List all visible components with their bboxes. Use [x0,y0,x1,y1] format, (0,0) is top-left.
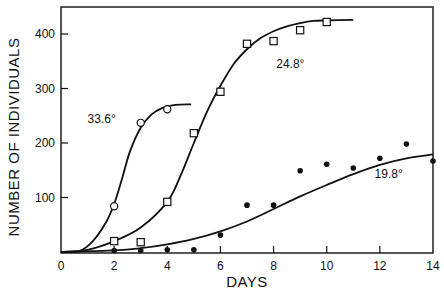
x-tick-label: 4 [164,259,171,273]
y-tick-label: 300 [35,82,55,96]
dot-marker [271,202,277,208]
series-label: 33.6° [88,112,116,126]
x-tick-label: 12 [373,259,387,273]
x-tick-label: 6 [217,259,224,273]
x-tick-label: 2 [111,259,118,273]
square-marker [243,40,250,47]
square-marker [297,27,304,34]
dot-marker [297,168,303,174]
dot-marker [244,202,250,208]
dot-marker [191,247,197,253]
series-label: 19.8° [375,167,403,181]
square-marker [323,18,330,25]
dot-marker [377,155,383,161]
dot-marker [324,161,330,167]
x-tick-label: 0 [58,259,65,273]
fitted-curves [61,20,433,252]
x-tick-label: 10 [320,259,334,273]
dot-marker [350,165,356,171]
x-tick-label: 8 [270,259,277,273]
curve-24.8° [61,20,353,252]
y-axis-ticks: 100200300400 [35,27,68,205]
dot-marker [164,247,170,253]
population-growth-chart: 02468101214 100200300400 DAYS NUMBER OF … [0,0,444,296]
x-axis-title: DAYS [226,273,268,290]
square-marker [164,198,171,205]
circle-marker [137,119,144,126]
x-tick-label: 14 [426,259,440,273]
square-marker [190,130,197,137]
y-tick-label: 200 [35,136,55,150]
curve-33.6° [61,104,191,252]
series-labels: 33.6°24.8°19.8° [88,57,403,181]
dot-marker [111,248,117,254]
square-marker [111,238,118,245]
circle-marker [111,203,118,210]
circle-marker [164,106,171,113]
square-marker [217,88,224,95]
dot-marker [218,232,224,238]
dot-marker [404,141,410,147]
dot-marker [430,158,436,164]
data-markers [111,18,436,253]
square-marker [270,37,277,44]
y-axis-title: NUMBER OF INDIVIDUALS [5,38,22,237]
square-marker [137,239,144,246]
series-label: 24.8° [276,57,304,71]
y-tick-label: 100 [35,191,55,205]
y-tick-label: 400 [35,27,55,41]
dot-marker [138,248,144,254]
